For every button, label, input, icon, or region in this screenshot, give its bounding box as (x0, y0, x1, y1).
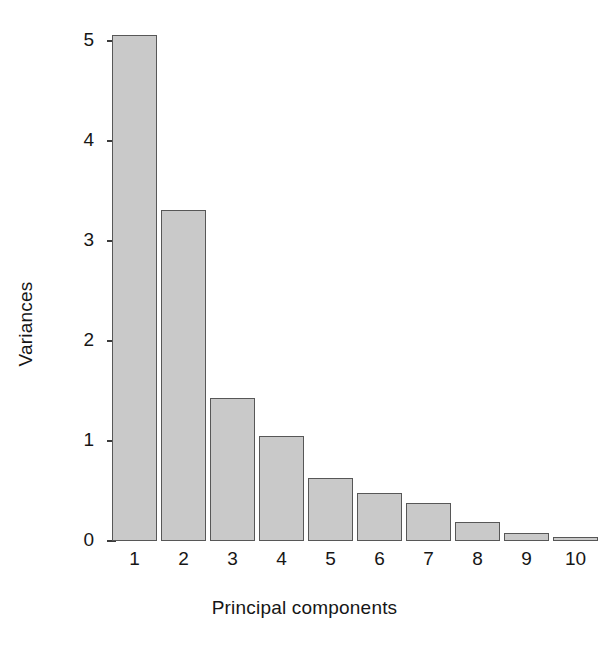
scree-plot: Variances 012345 12345678910 Principal c… (0, 0, 609, 648)
x-axis-title: Principal components (0, 597, 609, 619)
bar (308, 478, 353, 541)
bar (210, 398, 255, 541)
bar (112, 35, 157, 541)
bar (259, 436, 304, 541)
bar (455, 522, 500, 541)
bar (357, 493, 402, 541)
bar (553, 537, 598, 541)
x-tick-label: 10 (546, 549, 606, 568)
bar (504, 533, 549, 541)
bar (406, 503, 451, 541)
bar (161, 210, 206, 541)
